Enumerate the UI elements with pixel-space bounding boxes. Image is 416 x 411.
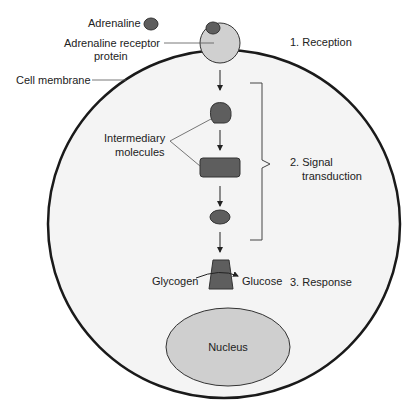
receptor-label-line2: protein <box>94 50 128 62</box>
intermediary-molecule-1 <box>210 103 231 123</box>
signaling-diagram: Adrenaline Adrenaline receptor protein C… <box>0 0 416 411</box>
intermediary-molecule-2 <box>200 158 240 177</box>
nucleus-label: Nucleus <box>208 341 248 353</box>
adrenaline-bound-molecule <box>206 22 220 34</box>
intermediary-label-line1: Intermediary <box>104 132 166 144</box>
adrenaline-icon <box>144 18 158 30</box>
stage-signal-label-line2: transduction <box>302 170 362 182</box>
glucose-label: Glucose <box>242 275 282 287</box>
stage-signal-label-line1: 2. Signal <box>290 156 333 168</box>
stage-reception-label: 1. Reception <box>290 36 352 48</box>
intermediary-label-line2: molecules <box>115 146 165 158</box>
glycogen-label: Glycogen <box>152 275 198 287</box>
enzyme-trapezoid <box>209 260 233 289</box>
intermediary-molecule-3 <box>210 210 230 224</box>
receptor-label-line1: Adrenaline receptor <box>64 37 160 49</box>
stage-response-label: 3. Response <box>290 276 352 288</box>
cell-membrane-label: Cell membrane <box>16 74 91 86</box>
adrenaline-label: Adrenaline <box>88 17 141 29</box>
